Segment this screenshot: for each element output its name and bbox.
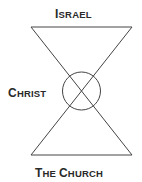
label-israel-rest: SRAEL — [59, 9, 92, 20]
label-the-church: THE CHURCH — [35, 163, 103, 181]
label-church-initial: C — [59, 166, 68, 180]
label-christ-initial: C — [8, 86, 17, 100]
label-church-rest: HURCH — [68, 168, 103, 179]
label-israel: ISRAEL — [55, 4, 92, 22]
label-christ-rest: HRIST — [17, 88, 47, 99]
label-the-initial: T — [35, 166, 43, 180]
label-christ: CHRIST — [8, 83, 46, 101]
label-the-rest: HE — [43, 168, 59, 179]
